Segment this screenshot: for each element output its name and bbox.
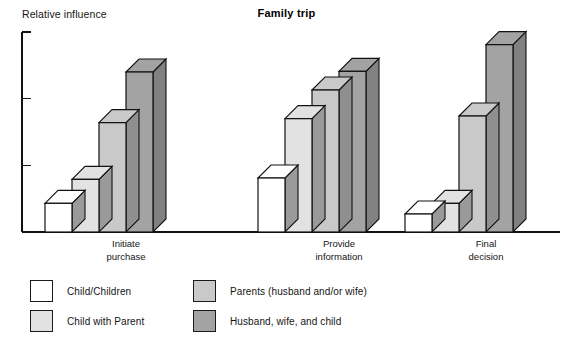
chart-figure: Family trip Relative influence Initiatep… — [0, 0, 573, 354]
legend-label-child_children: Child/Children — [67, 286, 131, 297]
bar-group — [405, 32, 526, 232]
category-label: Finaldecision — [385, 238, 573, 263]
legend-item-child_children: Child/Children — [30, 276, 144, 306]
category-label-line: decision — [385, 251, 573, 264]
legend-swatch-child_with_parent — [30, 310, 53, 332]
legend-item-child_with_parent: Child with Parent — [30, 306, 144, 336]
category-label-line: purchase — [25, 251, 227, 264]
bar-group — [45, 59, 166, 232]
legend-item-parents: Parents (husband and/or wife) — [193, 276, 367, 306]
legend-label-husband_wife_child: Husband, wife, and child — [230, 316, 341, 327]
legend-label-child_with_parent: Child with Parent — [67, 316, 144, 327]
bar — [258, 165, 298, 232]
legend-left-column: Child/ChildrenChild with Parent — [30, 276, 144, 336]
legend-swatch-parents — [193, 280, 216, 302]
bar-group — [258, 58, 379, 232]
bar — [45, 190, 85, 232]
legend-right-column: Parents (husband and/or wife)Husband, wi… — [193, 276, 367, 336]
legend-swatch-husband_wife_child — [193, 310, 216, 332]
category-label-line: Final — [385, 238, 573, 251]
legend-label-parents: Parents (husband and/or wife) — [230, 286, 367, 297]
legend-swatch-child_children — [30, 280, 53, 302]
category-label: Initiatepurchase — [25, 238, 227, 263]
category-label-line: Initiate — [25, 238, 227, 251]
legend-item-husband_wife_child: Husband, wife, and child — [193, 306, 367, 336]
